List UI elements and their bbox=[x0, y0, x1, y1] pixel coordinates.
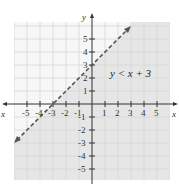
svg-text:3: 3 bbox=[128, 108, 133, 118]
inequality-label: y < x + 3 bbox=[109, 67, 152, 79]
x-axis-label-left: x bbox=[0, 109, 5, 119]
svg-text:3: 3 bbox=[83, 60, 88, 70]
x-axis-arrow-right bbox=[173, 102, 178, 106]
svg-text:5: 5 bbox=[154, 108, 159, 118]
x-axis-arrow-left bbox=[2, 102, 7, 106]
x-axis-label-right: x bbox=[171, 109, 176, 119]
svg-text:-1: -1 bbox=[78, 112, 86, 122]
svg-text:4: 4 bbox=[141, 108, 146, 118]
svg-text:-3: -3 bbox=[48, 108, 56, 118]
svg-text:-4: -4 bbox=[35, 108, 43, 118]
y-axis-arrow-up bbox=[90, 13, 94, 18]
svg-text:1: 1 bbox=[102, 108, 107, 118]
svg-text:1: 1 bbox=[83, 86, 88, 96]
inequality-graph: -5 -4 -3 -2 -1 1 2 3 4 5 5 4 3 2 1 -1 -2… bbox=[0, 0, 179, 190]
svg-text:-3: -3 bbox=[78, 138, 86, 148]
svg-text:-5: -5 bbox=[78, 164, 86, 174]
svg-text:2: 2 bbox=[115, 108, 120, 118]
svg-text:5: 5 bbox=[83, 34, 88, 44]
svg-text:-2: -2 bbox=[61, 108, 69, 118]
y-axis-label: y bbox=[81, 12, 86, 22]
svg-text:-2: -2 bbox=[78, 125, 86, 135]
svg-text:-4: -4 bbox=[78, 151, 86, 161]
svg-text:-5: -5 bbox=[22, 108, 30, 118]
svg-text:2: 2 bbox=[83, 73, 88, 83]
svg-text:4: 4 bbox=[83, 47, 88, 57]
